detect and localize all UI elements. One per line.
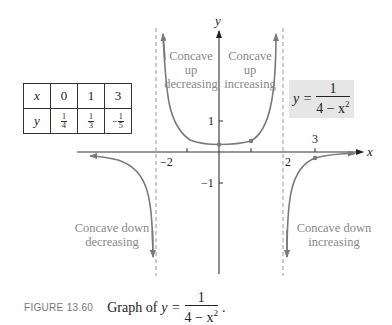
label-line: decreasing: [70, 235, 154, 249]
tick-label-y-neg1: −1: [201, 176, 214, 190]
tick-label-x-3: 3: [312, 132, 318, 146]
figure-caption: FIGURE 13.60 Graph of y = 1 4 − x2 .: [24, 291, 225, 325]
label-concave-up-decreasing: Concave up decreasing: [164, 49, 218, 91]
equation-numerator: 1: [316, 82, 349, 97]
value-table: x 0 1 3 y 1 4 1 3 − 1 5: [23, 83, 132, 134]
x-axis-label: x: [366, 144, 373, 159]
fraction: 1 3: [88, 113, 94, 130]
label-line: Concave down: [70, 221, 154, 235]
table-cell: 1: [78, 84, 105, 109]
caption-period: .: [222, 300, 226, 316]
fraction: 1 4: [61, 113, 67, 130]
denominator-exponent: 2: [345, 99, 350, 109]
caption-text: Graph of: [107, 300, 157, 316]
equation-denominator: 4 − x2: [316, 97, 349, 116]
table-cell: 0: [51, 84, 78, 109]
point-0-quarter: [217, 142, 221, 146]
caption-denominator: 4 − x2: [185, 306, 218, 325]
table-row-y: y 1 4 1 3 − 1 5: [24, 109, 132, 134]
point-3-neg-fifth: [313, 156, 317, 160]
label-concave-down-increasing: Concave down increasing: [292, 221, 376, 249]
caption-numerator: 1: [185, 291, 218, 306]
equation-fraction: 1 4 − x2: [316, 82, 349, 116]
table-cell: − 1 5: [105, 109, 132, 134]
tick-label-x-neg2: −2: [160, 155, 173, 169]
table-cell: 1 3: [78, 109, 105, 134]
table-row-x: x 0 1 3: [24, 84, 132, 109]
equation-lhs: y =: [293, 91, 312, 107]
table-header-y: y: [24, 109, 51, 134]
point-1-third: [249, 139, 253, 143]
figure-number: FIGURE 13.60: [24, 302, 93, 313]
label-line: Concave down: [292, 221, 376, 235]
tick-label-x-2: 2: [285, 155, 291, 169]
label-line: increasing: [221, 77, 279, 91]
fraction-denominator: 4: [62, 122, 66, 130]
tick-label-y-1: 1: [208, 114, 214, 128]
denominator-base: 4 − x: [316, 101, 345, 116]
label-line: Concave up: [164, 49, 218, 77]
fraction: 1 5: [118, 113, 124, 130]
label-concave-down-decreasing: Concave down decreasing: [70, 221, 154, 249]
fraction-denominator: 5: [119, 122, 123, 130]
label-line: Concave up: [221, 49, 279, 77]
table-cell: 1 4: [51, 109, 78, 134]
label-line: decreasing: [164, 77, 218, 91]
caption-fraction: 1 4 − x2: [185, 291, 218, 325]
fraction-denominator: 3: [89, 122, 93, 130]
label-concave-up-increasing: Concave up increasing: [221, 49, 279, 91]
denominator-base: 4 − x: [185, 310, 214, 325]
table-cell: 3: [105, 84, 132, 109]
y-axis-label: y: [213, 13, 221, 28]
equation-box: y = 1 4 − x2: [289, 80, 354, 118]
denominator-exponent: 2: [213, 308, 218, 318]
table-header-x: x: [24, 84, 51, 109]
label-line: increasing: [292, 235, 376, 249]
caption-lhs: y =: [161, 300, 180, 316]
